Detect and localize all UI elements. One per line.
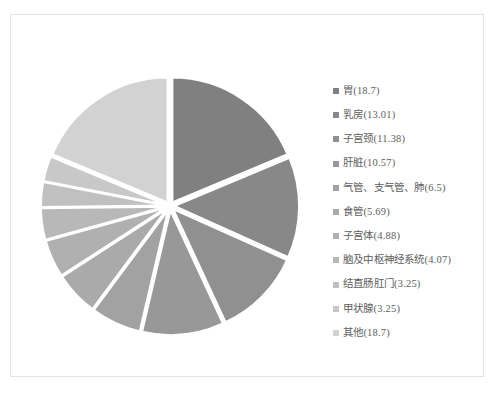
legend-item[interactable]: 结直肠肛门(3.25) — [323, 273, 483, 297]
legend-swatch-icon — [333, 233, 339, 239]
legend-swatch-icon — [333, 282, 339, 288]
legend-item[interactable]: 乳房(13.01) — [323, 103, 483, 127]
pie-slice-group — [41, 78, 299, 336]
legend-item[interactable]: 子宫体(4.88) — [323, 224, 483, 248]
legend-item[interactable]: 肝脏(10.57) — [323, 152, 483, 176]
legend-item-label: 其他(18.7) — [343, 328, 390, 339]
legend-item-label: 甲状腺(3.25) — [343, 304, 400, 315]
legend-item[interactable]: 脑及中枢神经系统(4.07) — [323, 248, 483, 272]
legend-item[interactable]: 胃(18.7) — [323, 79, 483, 103]
legend-item[interactable]: 气管、支气管、肺(6.5) — [323, 176, 483, 200]
legend-item-label: 子宫颈(11.38) — [343, 134, 405, 145]
legend-swatch-icon — [333, 330, 339, 336]
pie-chart-svg — [39, 75, 301, 337]
legend-item-label: 胃(18.7) — [343, 86, 380, 97]
legend-item-label: 肝脏(10.57) — [343, 158, 395, 169]
legend-swatch-icon — [333, 161, 339, 167]
chart-legend: 胃(18.7)乳房(13.01)子宫颈(11.38)肝脏(10.57)气管、支气… — [323, 79, 483, 345]
legend-swatch-icon — [333, 136, 339, 142]
pie-chart — [39, 75, 301, 337]
legend-swatch-icon — [333, 306, 339, 312]
legend-swatch-icon — [333, 112, 339, 118]
legend-item[interactable]: 其他(18.7) — [323, 321, 483, 345]
chart-frame: 胃(18.7)乳房(13.01)子宫颈(11.38)肝脏(10.57)气管、支气… — [10, 14, 484, 377]
legend-item-label: 食管(5.69) — [343, 207, 390, 218]
legend-item[interactable]: 食管(5.69) — [323, 200, 483, 224]
legend-item-label: 气管、支气管、肺(6.5) — [343, 183, 446, 194]
legend-item-label: 脑及中枢神经系统(4.07) — [343, 255, 451, 266]
legend-swatch-icon — [333, 257, 339, 263]
legend-item[interactable]: 甲状腺(3.25) — [323, 297, 483, 321]
legend-item[interactable]: 子宫颈(11.38) — [323, 127, 483, 151]
legend-swatch-icon — [333, 88, 339, 94]
legend-item-label: 结直肠肛门(3.25) — [343, 279, 421, 290]
legend-item-label: 乳房(13.01) — [343, 110, 395, 121]
legend-item-label: 子宫体(4.88) — [343, 231, 400, 242]
legend-swatch-icon — [333, 209, 339, 215]
legend-swatch-icon — [333, 185, 339, 191]
